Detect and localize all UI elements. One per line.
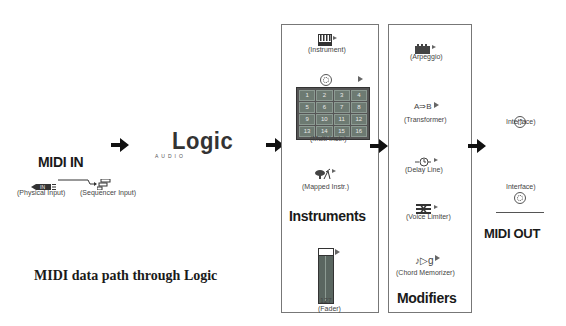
transformer-label: (Transformer) [404,116,447,123]
fader-control[interactable] [318,248,334,303]
channel-cell[interactable]: 8 [351,102,367,113]
delay-line-icon[interactable] [415,153,439,163]
instruments-title: Instruments [289,208,366,224]
interface-2-port-icon[interactable] [514,192,526,204]
interface-1-label: Interface) [506,118,536,125]
midi-out-divider [496,212,544,213]
midi-in-title: MIDI IN [38,154,83,170]
interface-2-label: Interface) [506,183,536,190]
channel-cell[interactable]: 1 [299,90,315,101]
arrow-icon [370,139,388,153]
mapped-instr-label: (Mapped Instr.) [302,183,349,190]
instrument-icon[interactable] [318,32,338,44]
fader-label: (Fader) [318,305,341,312]
transformer-glyph: A⇒B [414,102,432,111]
chord-memorizer-glyph: ♪▷ɡ [415,255,434,266]
sequencer-input-icon [97,176,111,187]
delay-line-label: (Delay Line) [405,166,443,173]
multi-instr-grid[interactable]: 1 2 3 4 5 6 7 8 9 10 11 12 13 14 15 16 [296,87,370,140]
physical-input-label: (Physical Input) [17,189,65,196]
chord-memorizer-icon[interactable]: ♪▷ɡ [415,255,440,266]
fader-value: 127 [320,297,332,304]
channel-cell[interactable]: 9 [299,114,315,125]
channel-cell[interactable]: 6 [316,102,332,113]
channel-cell[interactable]: 7 [334,102,350,113]
arpeggio-label: (Arpeggio) [410,53,443,60]
voice-limiter-label: (Voice Limiter) [406,213,451,220]
cable-icon [58,178,98,188]
arrow-icon [468,139,486,153]
midi-out-title: MIDI OUT [484,226,540,241]
mapped-instr-icon[interactable] [314,168,338,182]
physical-input-icon: IN [31,177,57,185]
channel-cell[interactable]: 16 [351,126,367,137]
modifiers-title: Modifiers [397,290,457,306]
arpeggio-icon[interactable] [415,40,437,50]
channel-cell[interactable]: 10 [316,114,332,125]
chord-memorizer-label: (Chord Memorizer) [396,269,455,276]
sequencer-input-label: (Sequencer Input) [80,189,136,196]
logic-subtitle: AUDIO [155,153,186,159]
instrument-label: (Instrument) [308,46,346,53]
channel-cell[interactable]: 2 [316,90,332,101]
diagram-caption: MIDI data path through Logic [34,268,217,284]
multi-instr-label: (Multi Instr.) [310,135,347,142]
voice-limiter-icon[interactable] [416,200,440,210]
channel-cell[interactable]: 4 [351,90,367,101]
channel-cell[interactable]: 11 [334,114,350,125]
arrow-icon [111,138,129,152]
transformer-icon[interactable]: A⇒B [414,102,439,111]
channel-cell[interactable]: 3 [334,90,350,101]
channel-cell[interactable]: 12 [351,114,367,125]
output-triangle-icon [358,76,363,82]
logic-wordmark: Logic [172,127,233,156]
channel-cell[interactable]: 5 [299,102,315,113]
logic-logo: Logic [172,128,233,154]
multi-instr-port-icon [320,74,332,86]
